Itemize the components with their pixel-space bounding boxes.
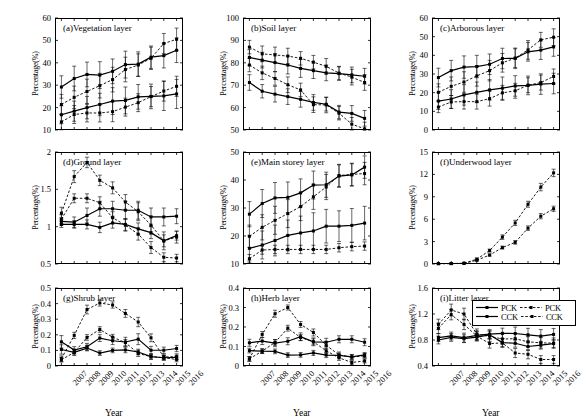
y-tick-label-d-2: 1.5 xyxy=(21,185,51,194)
y-tick-label-h-0: 0 xyxy=(209,362,239,371)
panel-title-a: (a)Vegetation layer xyxy=(63,23,132,33)
y-tick-label-g-5: 0.5 xyxy=(21,284,51,293)
y-tick-label-e-3: 40 xyxy=(209,176,239,185)
y-tick-label-a-2: 30 xyxy=(21,81,51,90)
x-axis-label-h: Year xyxy=(293,408,311,418)
panel-title-f: (f)Underwood layer xyxy=(440,157,512,167)
plot-area-c xyxy=(432,18,560,130)
panel-title-e: (e)Main storey layer xyxy=(251,157,324,167)
y-axis-label-a: Percentage(%) xyxy=(31,46,40,102)
y-tick-label-g-1: 0.1 xyxy=(21,346,51,355)
x-axis-label-i: Year xyxy=(482,408,500,418)
legend-label: CCK xyxy=(546,312,563,322)
y-tick-label-g-4: 0.4 xyxy=(21,300,51,309)
y-tick-label-b-3: 80 xyxy=(209,59,239,68)
y-tick-label-a-5: 60 xyxy=(21,14,51,23)
y-tick-label-f-3: 9 xyxy=(398,193,428,202)
legend-label: CCK xyxy=(501,312,518,322)
y-tick-label-i-0: 0.4 xyxy=(398,362,428,371)
plot-area-e xyxy=(243,152,371,264)
y-tick-label-h-2: 0.2 xyxy=(209,323,239,332)
y-tick-label-c-5: 50 xyxy=(398,33,428,42)
panel-title-b: (b)Soil layer xyxy=(251,23,296,33)
panel-title-h: (h)Herb layer xyxy=(251,293,300,303)
y-tick-label-g-0: 0 xyxy=(21,362,51,371)
y-tick-label-b-2: 70 xyxy=(209,81,239,90)
legend-item-cck-solid[interactable]: CCK xyxy=(476,312,521,322)
y-axis-label-b: Percentage(%) xyxy=(219,46,228,102)
y-tick-label-i-3: 1.6 xyxy=(398,284,428,293)
y-tick-label-e-4: 50 xyxy=(209,148,239,157)
y-tick-label-c-2: 20 xyxy=(398,89,428,98)
y-tick-label-d-3: 2 xyxy=(21,148,51,157)
y-tick-label-a-1: 20 xyxy=(21,104,51,113)
y-tick-label-h-3: 0.3 xyxy=(209,304,239,313)
y-tick-label-i-2: 1.2 xyxy=(398,310,428,319)
y-tick-label-f-1: 3 xyxy=(398,238,428,247)
panel-title-g: (g)Shrub layer xyxy=(63,293,115,303)
y-tick-label-e-0: 10 xyxy=(209,260,239,269)
y-tick-label-b-1: 60 xyxy=(209,104,239,113)
y-tick-label-c-1: 10 xyxy=(398,107,428,116)
y-tick-label-c-0: 0 xyxy=(398,126,428,135)
legend-item-cck-dotted[interactable]: CCK xyxy=(521,312,566,322)
y-tick-label-c-3: 30 xyxy=(398,70,428,79)
plot-area-a xyxy=(55,18,183,130)
y-tick-label-f-0: 0 xyxy=(398,260,428,269)
y-tick-label-f-4: 12 xyxy=(398,170,428,179)
y-tick-label-a-0: 10 xyxy=(21,126,51,135)
y-tick-label-f-5: 15 xyxy=(398,148,428,157)
panel-title-d: (d)Ground layer xyxy=(63,157,121,167)
y-tick-label-f-2: 6 xyxy=(398,215,428,224)
plot-area-b xyxy=(243,18,371,130)
y-tick-label-i-1: 0.8 xyxy=(398,336,428,345)
y-tick-label-b-4: 90 xyxy=(209,36,239,45)
y-tick-label-e-2: 30 xyxy=(209,204,239,213)
y-axis-label-i: Percentage(%) xyxy=(408,299,417,355)
plot-area-f xyxy=(432,152,560,264)
y-tick-label-a-3: 40 xyxy=(21,59,51,68)
y-tick-label-c-6: 60 xyxy=(398,14,428,23)
legend-line-dotted-icon xyxy=(521,312,543,321)
legend-row-1: CCKCCK xyxy=(476,312,572,321)
y-tick-label-b-5: 100 xyxy=(209,14,239,23)
plot-area-d xyxy=(55,152,183,264)
y-axis-label-f: Percentage(%) xyxy=(408,180,417,236)
y-tick-label-h-1: 0.1 xyxy=(209,343,239,352)
y-tick-label-h-4: 0.4 xyxy=(209,284,239,293)
y-tick-label-d-0: 0.5 xyxy=(21,260,51,269)
legend-line-solid-icon xyxy=(476,312,498,321)
x-axis-label-g: Year xyxy=(105,408,123,418)
y-tick-label-g-3: 0.3 xyxy=(21,315,51,324)
y-tick-label-c-4: 40 xyxy=(398,51,428,60)
y-tick-label-a-4: 50 xyxy=(21,36,51,45)
panel-title-c: (c)Arborous layer xyxy=(440,23,504,33)
y-tick-label-e-1: 20 xyxy=(209,232,239,241)
y-tick-label-d-1: 1 xyxy=(21,223,51,232)
y-tick-label-g-2: 0.2 xyxy=(21,331,51,340)
y-tick-label-b-0: 50 xyxy=(209,126,239,135)
chart-legend: PCKPCKCCKCCK xyxy=(472,300,576,326)
